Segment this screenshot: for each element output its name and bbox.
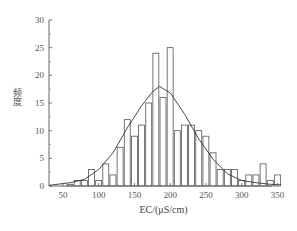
histogram-bar (210, 153, 216, 186)
histogram-bar (110, 175, 116, 186)
histogram-bar (146, 103, 152, 186)
histogram-bar (139, 125, 145, 186)
histogram-bar (81, 180, 87, 186)
histogram-bar (167, 48, 173, 186)
y-tick-label: 25 (35, 43, 45, 53)
histogram-bar (253, 175, 259, 186)
histogram-bar (189, 125, 195, 186)
histogram-bars (67, 48, 280, 186)
y-tick-label: 20 (35, 70, 45, 80)
y-tick-label: 10 (35, 126, 45, 136)
histogram-bar (203, 136, 209, 186)
histogram-bar (131, 136, 137, 186)
histogram-bar (117, 147, 123, 186)
y-tick-label: 30 (35, 15, 45, 25)
histogram-bar (103, 164, 109, 186)
histogram-bar (217, 169, 223, 186)
y-axis-title: 频度 (10, 88, 22, 106)
y-tick-label: 5 (40, 153, 45, 163)
x-tick-label: 150 (128, 190, 142, 200)
y-tick-label: 15 (35, 98, 45, 108)
x-tick-label: 250 (199, 190, 213, 200)
histogram-bar (89, 169, 95, 186)
histogram-bar (153, 53, 159, 186)
histogram-bar (246, 175, 252, 186)
x-tick-label: 50 (59, 190, 69, 200)
histogram-bar (124, 120, 130, 186)
histogram-chart: 051015202530 50100150200250300350 (0, 0, 297, 231)
histogram-bar (267, 180, 273, 186)
x-tick-label: 200 (164, 190, 178, 200)
histogram-bar (174, 131, 180, 186)
histogram-bar (260, 164, 266, 186)
x-tick-label: 350 (271, 190, 285, 200)
x-tick-label: 300 (235, 190, 249, 200)
x-tick-label: 100 (92, 190, 106, 200)
x-axis-title: EC/(μS/cm) (0, 204, 297, 215)
histogram-bar (181, 125, 187, 186)
histogram-bar (160, 97, 166, 186)
y-tick-label: 0 (40, 181, 45, 191)
